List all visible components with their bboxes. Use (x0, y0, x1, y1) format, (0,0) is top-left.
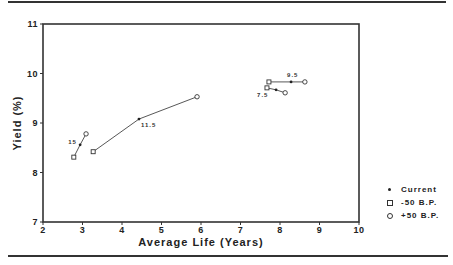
x-tick-label: 4 (119, 225, 125, 235)
plot-frame (43, 24, 359, 222)
x-tick-label: 10 (353, 225, 364, 235)
dot-marker-icon (385, 186, 399, 194)
point-annotations: 1511.59.57.5 (68, 72, 298, 145)
circle-marker-icon (385, 212, 399, 220)
bottom-rule (8, 255, 448, 257)
y-tick-label: 8 (32, 168, 38, 178)
plus-50bp-point (283, 91, 287, 95)
legend-item-minus-50bp: -50 B.P. (385, 196, 439, 209)
axes: 23456789107891011 (27, 19, 365, 235)
current-point (290, 81, 293, 84)
yield-vs-average-life-chart: 23456789107891011 1511.59.57.5 Average L… (0, 0, 453, 265)
x-tick-label: 3 (80, 225, 86, 235)
x-tick-label: 2 (40, 225, 46, 235)
legend-label: Current (401, 185, 437, 194)
y-tick-label: 11 (27, 19, 38, 29)
x-tick-label: 8 (277, 225, 283, 235)
x-tick-label: 5 (159, 225, 165, 235)
x-tick-label: 6 (198, 225, 204, 235)
annotation-11.5: 11.5 (141, 122, 156, 128)
annotation-9.5: 9.5 (287, 72, 298, 78)
y-axis-title: Yield (%) (11, 95, 23, 150)
series-lines (74, 82, 305, 157)
legend-item-current: Current (385, 183, 439, 196)
minus-50bp-point (267, 80, 271, 84)
plus-50bp-point (84, 132, 88, 136)
legend: Current -50 B.P. +50 B.P. (385, 183, 439, 222)
y-tick-label: 7 (32, 217, 38, 227)
current-point (79, 143, 82, 146)
y-tick-label: 9 (32, 118, 38, 128)
x-tick-label: 7 (238, 225, 244, 235)
annotation-7.5: 7.5 (257, 92, 268, 98)
plus-50bp-point (303, 80, 307, 84)
x-tick-label: 9 (317, 225, 323, 235)
plus-50bp-point (195, 95, 199, 99)
legend-item-plus-50bp: +50 B.P. (385, 209, 439, 222)
legend-label: -50 B.P. (401, 198, 437, 207)
square-marker-icon (385, 199, 399, 207)
minus-50bp-point (91, 150, 95, 154)
current-point (138, 118, 141, 121)
annotation-15: 15 (68, 139, 77, 145)
minus-50bp-point (265, 86, 269, 90)
minus-50bp-point (72, 155, 76, 159)
y-tick-label: 10 (27, 69, 38, 79)
data-points (72, 80, 307, 159)
legend-label: +50 B.P. (401, 211, 439, 220)
x-axis-title: Average Life (Years) (138, 236, 263, 248)
current-point (275, 88, 278, 91)
